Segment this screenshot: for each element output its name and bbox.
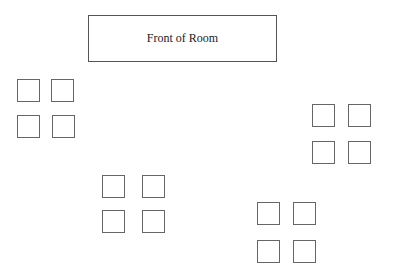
desk <box>102 210 125 233</box>
desk <box>293 202 316 225</box>
desk <box>142 210 165 233</box>
desk <box>102 175 125 198</box>
desk <box>312 104 335 127</box>
desk <box>293 240 316 263</box>
desk <box>348 141 371 164</box>
desk <box>257 240 280 263</box>
front-of-room-box: Front of Room <box>88 15 277 62</box>
desk <box>17 115 40 138</box>
desk <box>312 141 335 164</box>
desk <box>17 79 40 102</box>
front-of-room-label: Front of Room <box>147 31 218 46</box>
desk <box>348 104 371 127</box>
desk <box>51 79 74 102</box>
desk <box>142 175 165 198</box>
desk <box>257 202 280 225</box>
desk <box>52 115 75 138</box>
